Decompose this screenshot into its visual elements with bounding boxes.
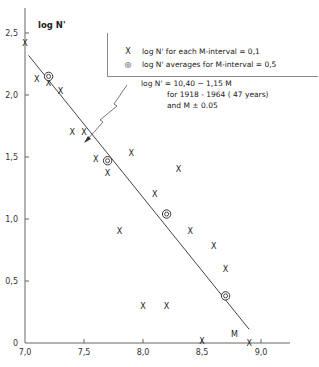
- x-marker-icon: X: [211, 242, 217, 251]
- y-axis-title: log N': [38, 20, 66, 30]
- legend-label: log N' for each M-interval = 0,1: [142, 47, 260, 56]
- y-tick-label: 1,5: [5, 153, 18, 162]
- x-tick-label: 9,0: [255, 348, 268, 357]
- double-circle-marker-icon: [221, 292, 229, 300]
- y-tick-label: 1,0: [5, 215, 18, 224]
- x-tick-label: 7,0: [19, 348, 32, 357]
- legend-item-averages: ◎ log N' averages for M-interval = 0,5: [118, 60, 276, 69]
- annotation-precision: and M ± 0.05: [141, 100, 269, 111]
- y-tick-label: 2,0: [5, 91, 18, 100]
- x-marker-icon: X: [223, 265, 229, 274]
- y-tick-label: 0,5: [5, 277, 18, 286]
- y-tick-label: 0: [13, 339, 18, 348]
- annotation-leader: [87, 85, 127, 140]
- x-marker-icon: X: [164, 302, 170, 311]
- x-marker-icon: X: [34, 75, 40, 84]
- x-marker-icon: X: [246, 339, 252, 348]
- double-circle-marker-icon: [162, 210, 170, 218]
- legend: X log N' for each M-interval = 0,1 ◎ log…: [107, 33, 318, 77]
- x-marker-icon: X: [140, 302, 146, 311]
- double-circle-marker-icon: [44, 72, 52, 80]
- x-marker-icon: X: [69, 128, 75, 137]
- x-marker-icon: X: [118, 47, 138, 56]
- double-circle-marker-icon: ◎: [118, 60, 138, 69]
- x-marker-icon: X: [117, 227, 123, 236]
- x-tick-label: 8,5: [196, 348, 209, 357]
- x-marker-icon: X: [58, 87, 64, 96]
- x-marker-icon: X: [22, 39, 28, 48]
- x-marker-icon: X: [128, 149, 134, 158]
- x-marker-icon: X: [152, 190, 158, 199]
- annotation-period: for 1918 - 1964 ( 47 years): [141, 89, 269, 100]
- x-marker-icon: X: [199, 337, 205, 346]
- x-tick-label: 7,5: [78, 348, 91, 357]
- x-marker-icon: X: [187, 227, 193, 236]
- x-marker-icon: X: [105, 169, 111, 178]
- x-marker-icon: X: [176, 165, 182, 174]
- x-axis-title: M: [231, 330, 238, 339]
- legend-item-each-interval: X log N' for each M-interval = 0,1: [118, 47, 260, 56]
- x-marker-icon: X: [93, 155, 99, 164]
- x-tick-label: 8,0: [137, 348, 150, 357]
- legend-label: log N' averages for M-interval = 0,5: [142, 60, 276, 69]
- x-marker-icon: X: [81, 128, 87, 137]
- regression-annotation: log N' = 10,40 − 1,15 M for 1918 - 1964 …: [141, 78, 269, 111]
- annotation-equation: log N' = 10,40 − 1,15 M: [141, 78, 269, 89]
- y-tick-label: 2,5: [5, 29, 18, 38]
- double-circle-marker-icon: [103, 157, 111, 165]
